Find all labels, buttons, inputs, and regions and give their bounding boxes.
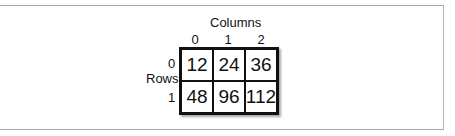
column-index-0: 0 bbox=[180, 32, 210, 47]
cell-1-1: 96 bbox=[213, 81, 245, 113]
cell-1-2: 112 bbox=[245, 81, 277, 113]
rows-axis-label: Rows bbox=[146, 71, 179, 86]
matrix-grid: 12 24 36 48 96 112 bbox=[179, 47, 279, 115]
cell-0-1: 24 bbox=[213, 49, 245, 81]
cell-0-2: 36 bbox=[245, 49, 277, 81]
cell-1-0: 48 bbox=[181, 81, 213, 113]
row-index-1: 1 bbox=[168, 90, 175, 105]
cell-0-0: 12 bbox=[181, 49, 213, 81]
column-index-2: 2 bbox=[246, 32, 276, 47]
row-index-0: 0 bbox=[168, 56, 175, 71]
columns-axis-label: Columns bbox=[210, 15, 261, 30]
column-index-1: 1 bbox=[213, 32, 243, 47]
